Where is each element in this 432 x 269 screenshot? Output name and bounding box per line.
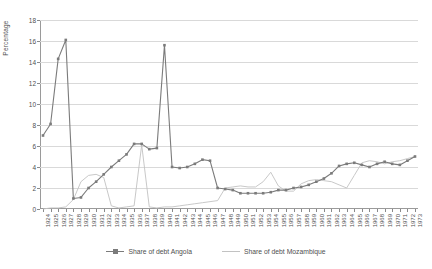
x-tick-mark (286, 209, 287, 212)
x-tick-label: 1947 (220, 214, 226, 227)
data-point-marker (102, 173, 105, 176)
x-tick-label: 1955 (281, 214, 287, 227)
x-tick-label: 1963 (341, 214, 347, 227)
x-tick-label: 1962 (334, 214, 340, 227)
data-point-marker (406, 159, 409, 162)
x-tick-label: 1928 (76, 214, 82, 227)
x-tick-label: 1958 (304, 214, 310, 227)
x-tick-label: 1966 (364, 214, 370, 227)
x-tick-label: 1964 (349, 214, 355, 227)
data-point-marker (391, 163, 394, 166)
x-tick-mark (240, 209, 241, 212)
x-tick-mark (195, 209, 196, 212)
x-tick-mark (263, 209, 264, 212)
data-point-marker (201, 158, 204, 161)
x-tick-label: 1960 (319, 214, 325, 227)
x-tick-mark (172, 209, 173, 212)
x-tick-mark (233, 209, 234, 212)
x-tick-label: 1933 (114, 214, 120, 227)
legend-item-mozambique[interactable]: Share of debt Mozambique (222, 247, 326, 255)
series-line (43, 145, 415, 209)
x-tick-mark (407, 209, 408, 212)
x-tick-mark (51, 209, 52, 212)
x-tick-mark (134, 209, 135, 212)
x-tick-mark (256, 209, 257, 212)
data-point-marker (361, 164, 364, 167)
x-tick-label: 1932 (106, 214, 112, 227)
x-tick-mark (248, 209, 249, 212)
x-tick-label: 1948 (228, 214, 234, 227)
x-tick-mark (104, 209, 105, 212)
y-tick-label: 12 (29, 80, 36, 87)
data-point-marker (353, 162, 356, 165)
x-tick-mark (324, 209, 325, 212)
data-point-marker (95, 180, 98, 183)
data-point-marker (300, 186, 303, 189)
x-tick-mark (127, 209, 128, 212)
legend-marker-mozambique (222, 247, 240, 255)
plot-area: 024681012141618 192419251926192719281929… (40, 20, 418, 209)
y-tick-label: 0 (32, 206, 36, 213)
legend-item-angola[interactable]: Share of debt Angola (106, 247, 192, 255)
x-tick-label: 1949 (235, 214, 241, 227)
x-tick-mark (119, 209, 120, 212)
x-tick-label: 1929 (83, 214, 89, 227)
data-point-marker (338, 165, 341, 168)
x-tick-mark (66, 209, 67, 212)
data-point-marker (133, 143, 136, 146)
x-tick-label: 1952 (258, 214, 264, 227)
x-tick-label: 1951 (250, 214, 256, 227)
legend-label-angola: Share of debt Angola (128, 248, 192, 255)
x-tick-label: 1973 (417, 214, 423, 227)
x-tick-label: 1931 (99, 214, 105, 227)
data-point-marker (368, 166, 371, 169)
x-tick-mark (271, 209, 272, 212)
data-series-layer (40, 20, 418, 209)
data-point-marker (87, 187, 90, 190)
data-point-marker (80, 196, 83, 199)
data-point-marker (383, 160, 386, 163)
data-point-marker (292, 187, 295, 190)
data-point-marker (414, 155, 417, 158)
x-tick-label: 1965 (357, 214, 363, 227)
x-tick-mark (164, 209, 165, 212)
x-tick-label: 1957 (296, 214, 302, 227)
data-point-marker (307, 184, 310, 187)
data-point-marker (216, 187, 219, 190)
x-tick-mark (81, 209, 82, 212)
x-tick-mark (210, 209, 211, 212)
legend-label-mozambique: Share of debt Mozambique (244, 248, 326, 255)
data-point-marker (171, 166, 174, 169)
x-tick-label: 1938 (152, 214, 158, 227)
x-tick-mark (187, 209, 188, 212)
x-tick-label: 1971 (402, 214, 408, 227)
y-tick-label: 6 (32, 143, 36, 150)
x-tick-mark (377, 209, 378, 212)
x-tick-label: 1930 (91, 214, 97, 227)
x-tick-label: 1954 (273, 214, 279, 227)
x-tick-label: 1972 (410, 214, 416, 227)
x-tick-label: 1927 (68, 214, 74, 227)
data-point-marker (148, 148, 151, 151)
x-tick-mark (339, 209, 340, 212)
data-point-marker (239, 192, 242, 195)
data-point-marker (277, 189, 280, 192)
y-tick-label: 8 (32, 122, 36, 129)
data-point-marker (315, 180, 318, 183)
x-tick-label: 1943 (190, 214, 196, 227)
data-point-marker (72, 197, 75, 200)
data-point-marker (376, 163, 379, 166)
x-tick-label: 1970 (395, 214, 401, 227)
data-point-marker (140, 143, 143, 146)
y-tick-label: 16 (29, 38, 36, 45)
y-tick-label: 2 (32, 185, 36, 192)
x-tick-mark (294, 209, 295, 212)
x-tick-label: 1940 (167, 214, 173, 227)
x-tick-mark (362, 209, 363, 212)
data-point-marker (57, 58, 60, 61)
x-tick-label: 1937 (144, 214, 150, 227)
x-tick-label: 1941 (174, 214, 180, 227)
x-tick-mark (142, 209, 143, 212)
data-point-marker (64, 39, 67, 42)
x-tick-mark (73, 209, 74, 212)
